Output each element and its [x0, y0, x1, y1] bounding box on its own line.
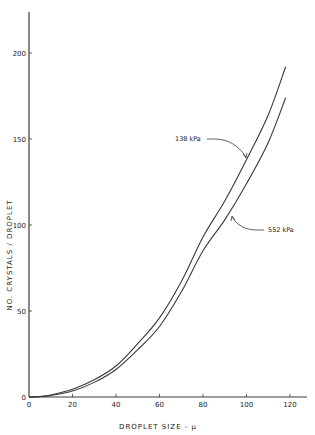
annotation-552kpa: 552 kPa [268, 226, 294, 234]
y-tick-label: 0 [22, 394, 26, 402]
ticks: 020406080100120050100150200 [13, 50, 297, 410]
data-series [29, 67, 286, 397]
x-tick-label: 0 [27, 401, 31, 409]
series-line-552-kpa [29, 98, 286, 397]
x-tick-label: 100 [240, 401, 253, 409]
series-line-138-kpa [29, 67, 286, 397]
y-tick-label: 50 [17, 308, 26, 316]
leader-arrow-138kpa [207, 139, 246, 157]
line-chart: 020406080100120050100150200 138 kPa552 k… [0, 0, 315, 435]
y-tick-label: 150 [13, 136, 26, 144]
x-tick-label: 120 [283, 401, 296, 409]
x-tick-label: 40 [112, 401, 121, 409]
x-tick-label: 80 [199, 401, 208, 409]
annotations: 138 kPa552 kPa [175, 135, 294, 234]
x-axis-title: DROPLET SIZE - μ [119, 423, 197, 431]
y-tick-label: 100 [13, 222, 26, 230]
x-tick-label: 20 [68, 401, 77, 409]
axes [29, 12, 307, 397]
leader-arrow-552kpa [232, 217, 264, 230]
x-tick-label: 60 [155, 401, 164, 409]
annotation-138kpa: 138 kPa [175, 135, 201, 143]
y-axis-title: NO. CRYSTALS / DROPLET [6, 199, 14, 310]
y-tick-label: 200 [13, 50, 26, 58]
